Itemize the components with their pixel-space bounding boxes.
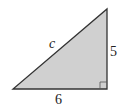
hypotenuse-label: c xyxy=(49,36,56,51)
right-triangle xyxy=(13,9,107,89)
triangle-diagram: c 5 6 xyxy=(0,0,125,110)
horizontal-leg-label: 6 xyxy=(55,92,62,107)
vertical-leg-label: 5 xyxy=(110,44,117,59)
